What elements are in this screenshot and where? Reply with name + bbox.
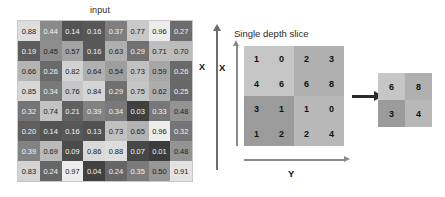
- heatmap-cell-value: 0.34: [44, 87, 58, 96]
- heatmap-cell: 0.73: [127, 61, 149, 81]
- slice-cell-value: 8: [329, 79, 334, 89]
- heatmap-cell-value: 0.19: [22, 47, 36, 56]
- output-cell: 6: [378, 73, 405, 100]
- heatmap-cell-value: 0.77: [131, 27, 145, 36]
- max-pool-arrow-icon: [352, 95, 374, 98]
- slice-cell-value: 6: [279, 79, 284, 89]
- heatmap-cell: 0.88: [105, 141, 127, 161]
- heatmap-cell: 0.26: [40, 61, 62, 81]
- heatmap-cell-value: 0.86: [87, 147, 101, 156]
- slice-cell: 6: [294, 71, 319, 96]
- heatmap-cell-value: 0.26: [44, 67, 58, 76]
- heatmap-cell: 0.35: [127, 161, 149, 181]
- heatmap-cell: 0.16: [62, 121, 84, 141]
- slice-cell-value: 1: [304, 104, 309, 114]
- heatmap-cell-value: 0.39: [22, 147, 36, 156]
- heatmap-cell-value: 0.57: [65, 47, 79, 56]
- heatmap-cell-value: 0.34: [109, 107, 123, 116]
- heatmap-cell: 0.48: [170, 141, 192, 161]
- slice-cell: 4: [319, 121, 344, 146]
- heatmap-cell: 0.39: [83, 101, 105, 121]
- single-depth-slice-panel: Single depth slice X 1023466831101224 Y: [228, 0, 368, 197]
- heatmap-cell-value: 0.16: [87, 27, 101, 36]
- output-cell-value: 8: [416, 82, 421, 92]
- slice-cell: 3: [319, 46, 344, 71]
- heatmap-cell-value: 0.62: [152, 87, 166, 96]
- heatmap-cell-value: 0.32: [22, 107, 36, 116]
- heatmap-cell: 0.71: [149, 41, 171, 61]
- slice-y-axis-arrow-icon: [244, 159, 344, 161]
- input-heatmap-grid: 0.880.440.140.160.370.770.960.270.190.45…: [17, 20, 193, 182]
- heatmap-cell: 0.33: [149, 101, 171, 121]
- heatmap-cell: 0.16: [83, 21, 105, 41]
- heatmap-cell-value: 0.91: [174, 167, 188, 176]
- heatmap-cell: 0.88: [18, 21, 40, 41]
- heatmap-cell: 0.64: [83, 61, 105, 81]
- heatmap-cell-value: 0.74: [44, 107, 58, 116]
- heatmap-cell: 0.62: [149, 81, 171, 101]
- slice-cell-value: 3: [254, 104, 259, 114]
- heatmap-cell: 0.13: [83, 121, 105, 141]
- slice-cell-value: 0: [329, 104, 334, 114]
- heatmap-cell-value: 0.69: [44, 147, 58, 156]
- output-cell: 4: [405, 100, 432, 127]
- heatmap-cell: 0.69: [40, 141, 62, 161]
- heatmap-cell-value: 0.44: [44, 27, 58, 36]
- heatmap-cell: 0.70: [170, 41, 192, 61]
- slice-cell: 1: [244, 121, 269, 146]
- heatmap-cell: 0.74: [40, 101, 62, 121]
- heatmap-cell-value: 0.66: [22, 67, 36, 76]
- slice-cell-value: 3: [329, 54, 334, 64]
- slice-cell: 1: [294, 96, 319, 121]
- output-cell-value: 4: [416, 109, 421, 119]
- heatmap-cell: 0.82: [62, 61, 84, 81]
- slice-cell-value: 6: [304, 79, 309, 89]
- heatmap-cell: 0.16: [83, 41, 105, 61]
- heatmap-cell: 0.77: [127, 21, 149, 41]
- heatmap-cell-value: 0.27: [174, 27, 188, 36]
- output-cell-value: 3: [389, 109, 394, 119]
- heatmap-cell: 0.34: [105, 101, 127, 121]
- slice-grid: 1023466831101224: [244, 46, 344, 146]
- slice-cell-value: 0: [279, 54, 284, 64]
- heatmap-cell-value: 0.04: [87, 167, 101, 176]
- slice-x-axis-arrow-icon: [236, 46, 238, 146]
- heatmap-cell-value: 0.21: [65, 107, 79, 116]
- slice-x-axis-label: X: [219, 62, 225, 73]
- output-cell: 8: [405, 73, 432, 100]
- heatmap-cell-value: 0.07: [131, 147, 145, 156]
- slice-cell: 8: [319, 71, 344, 96]
- heatmap-cell-value: 0.33: [152, 107, 166, 116]
- heatmap-cell-value: 0.96: [152, 127, 166, 136]
- slice-y-axis-label: Y: [288, 168, 294, 179]
- heatmap-cell: 0.27: [170, 21, 192, 41]
- slice-cell-value: 2: [279, 129, 284, 139]
- heatmap-cell-value: 0.48: [174, 107, 188, 116]
- slice-cell: 0: [319, 96, 344, 121]
- heatmap-cell-value: 0.50: [152, 167, 166, 176]
- heatmap-cell-value: 0.64: [87, 67, 101, 76]
- heatmap-cell: 0.09: [62, 141, 84, 161]
- heatmap-cell: 0.44: [40, 21, 62, 41]
- heatmap-cell-value: 0.85: [22, 87, 36, 96]
- heatmap-cell-value: 0.03: [131, 107, 145, 116]
- heatmap-cell-value: 0.88: [109, 147, 123, 156]
- slice-cell-value: 4: [254, 79, 259, 89]
- heatmap-cell: 0.45: [40, 41, 62, 61]
- pooled-output-grid: 6834: [378, 73, 432, 127]
- heatmap-cell-value: 0.24: [44, 167, 58, 176]
- heatmap-cell-value: 0.54: [109, 67, 123, 76]
- heatmap-cell-value: 0.73: [109, 127, 123, 136]
- output-cell: 3: [378, 100, 405, 127]
- heatmap-cell: 0.91: [170, 161, 192, 181]
- heatmap-cell: 0.97: [62, 161, 84, 181]
- heatmap-cell: 0.73: [105, 121, 127, 141]
- heatmap-cell-value: 0.88: [22, 27, 36, 36]
- heatmap-cell: 0.25: [170, 81, 192, 101]
- heatmap-cell-value: 0.73: [131, 67, 145, 76]
- slice-cell: 1: [244, 46, 269, 71]
- heatmap-cell: 0.14: [62, 21, 84, 41]
- slice-cell-value: 2: [304, 129, 309, 139]
- slice-cell-value: 4: [329, 129, 334, 139]
- heatmap-cell-value: 0.71: [152, 47, 166, 56]
